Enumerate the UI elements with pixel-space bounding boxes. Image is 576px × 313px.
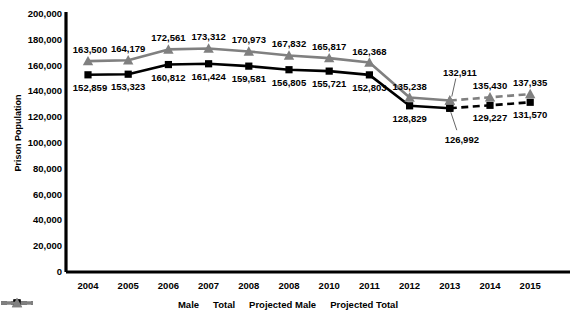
- data-label-male-2013: 126,992: [445, 134, 479, 145]
- chart-legend: MaleTotalProjected MaleProjected Total: [0, 297, 576, 311]
- legend-label: Projected Male: [249, 299, 316, 310]
- data-label-male-2015: 131,570: [513, 109, 547, 120]
- legend-item-male[interactable]: Male: [178, 299, 199, 310]
- data-label-male-2014: 129,227: [473, 112, 507, 123]
- data-label-male-2010: 155,721: [312, 78, 346, 89]
- data-label-male-2008: 156,805: [272, 77, 306, 88]
- legend-label: Projected Total: [330, 299, 398, 310]
- legend-label: Total: [213, 299, 235, 310]
- data-label-total-2007: 173,312: [191, 31, 225, 42]
- data-label-male-2005: 153,323: [111, 81, 145, 92]
- data-label-male-2011: 152,803: [352, 82, 386, 93]
- data-label-total-2013: 132,911: [443, 67, 477, 78]
- data-label-total-2005: 164,179: [111, 43, 145, 54]
- data-label-male-2008: 159,581: [232, 73, 266, 84]
- data-label-male-2004: 152,859: [73, 82, 107, 93]
- legend-item-projected-total[interactable]: Projected Total: [330, 299, 398, 310]
- data-label-total-2015: 137,935: [513, 77, 547, 88]
- data-label-total-2012: 135,238: [392, 81, 426, 92]
- legend-item-total[interactable]: Total: [213, 299, 235, 310]
- data-label-total-2010: 165,817: [312, 41, 346, 52]
- legend-label: Male: [178, 299, 199, 310]
- data-label-total-2004: 163,500: [73, 44, 107, 55]
- legend-item-projected-male[interactable]: Projected Male: [249, 299, 316, 310]
- data-label-male-2007: 161,424: [191, 71, 225, 82]
- data-label-male-2012: 128,829: [392, 113, 426, 124]
- data-label-total-2006: 172,561: [151, 32, 185, 43]
- data-label-total-2008: 167,832: [272, 38, 306, 49]
- data-label-total-2008: 170,973: [232, 34, 266, 45]
- prison-population-line-chart: Prison Population 200,000180,000160,0001…: [0, 0, 576, 313]
- data-label-male-2006: 160,812: [151, 72, 185, 83]
- legend-swatch-triangle-icon: [0, 297, 34, 309]
- data-label-total-2011: 162,368: [352, 46, 386, 57]
- data-label-total-2014: 135,430: [473, 80, 507, 91]
